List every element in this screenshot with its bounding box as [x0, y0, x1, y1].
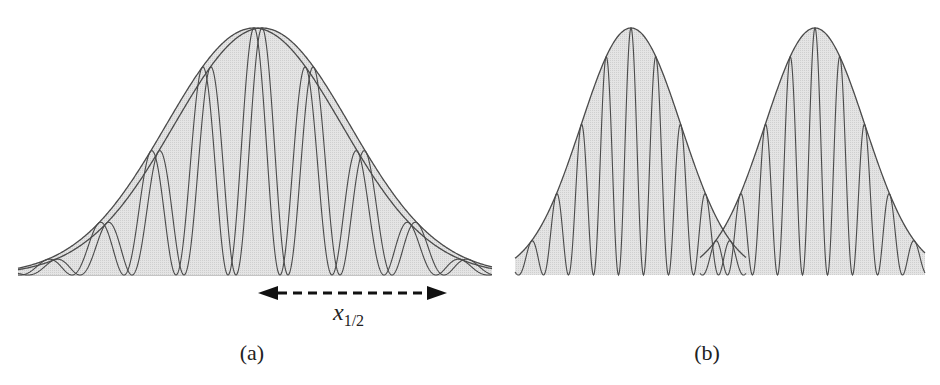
figure-canvas: x1/2 (a) (b): [0, 0, 940, 385]
half-width-label-main: x: [332, 299, 344, 325]
panel-b-caption: (b): [694, 340, 720, 365]
arrow-head-right-icon: [427, 286, 447, 300]
panel-b-envelope-fill: [515, 28, 925, 275]
half-width-label: x1/2: [332, 299, 364, 329]
panel-b: (b): [515, 28, 925, 365]
panel-a-caption: (a): [240, 340, 264, 365]
half-width-label-subscript: 1/2: [344, 312, 364, 329]
half-width-arrow: [258, 286, 447, 300]
panel-a: x1/2 (a): [18, 28, 492, 365]
arrow-head-left-icon: [258, 286, 278, 300]
